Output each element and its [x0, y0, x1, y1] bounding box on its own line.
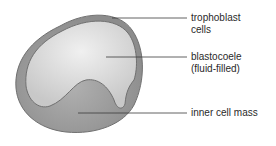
inner-cell-mass-label: inner cell mass — [191, 107, 258, 119]
blastocoele-label: blastocoele (fluid-filled) — [191, 51, 242, 75]
trophoblast-label: trophoblast cells — [191, 12, 240, 36]
